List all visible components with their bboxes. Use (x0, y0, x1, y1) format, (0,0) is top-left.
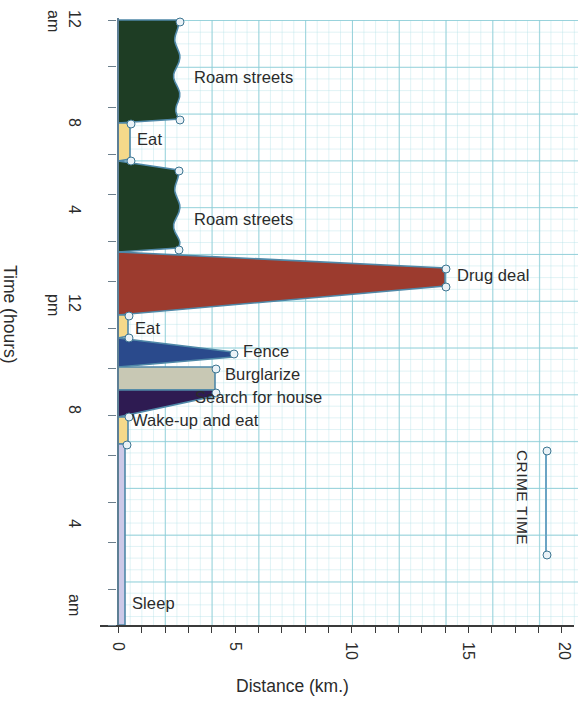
crime-time-endpoint-bottom (543, 551, 552, 560)
y-axis-title: Time (hours) (0, 265, 20, 364)
x-tick-minor (211, 627, 212, 633)
label-drug-deal: Drug deal (457, 266, 529, 285)
label-sleep: Sleep (132, 594, 175, 613)
endpoint-marker (127, 157, 136, 166)
bar-roam-streets-1 (118, 20, 180, 123)
y-tick-minor (108, 328, 116, 329)
y-tick-minor (108, 66, 116, 67)
y-tick (108, 368, 116, 369)
label-search-for-house: Search for house (195, 388, 322, 407)
x-tick-minor (165, 627, 166, 633)
x-tick-minor (561, 627, 562, 633)
x-tick-minor (421, 627, 422, 633)
x-tick-minor (491, 627, 492, 633)
y-tick-minor (108, 589, 116, 590)
y-tick-label-12am-num: 12 (65, 10, 83, 28)
x-axis-line (100, 625, 574, 627)
bar-drug-deal (118, 252, 445, 315)
x-tick-minor (445, 627, 446, 633)
bar-sleep (118, 444, 125, 625)
y-tick (108, 455, 116, 456)
y-tick-label-12pm-mer: pm (44, 294, 62, 316)
x-tick-label-0: 0 (109, 642, 127, 651)
x-tick-label-20: 20 (555, 642, 573, 660)
chart-root: Roam streets Eat Roam streets Drug deal … (0, 0, 585, 713)
x-axis-title: Distance (km.) (0, 676, 585, 697)
endpoint-marker (123, 441, 132, 450)
x-tick-minor (141, 627, 142, 633)
plot-area: Roam streets Eat Roam streets Drug deal … (118, 20, 578, 625)
y-tick-label-am-mer: am (65, 594, 83, 616)
endpoint-marker (125, 312, 134, 321)
label-roam-streets-2: Roam streets (194, 210, 293, 229)
x-tick (468, 627, 469, 633)
endpoint-marker (175, 167, 184, 176)
y-tick-label-12am-mer: am (44, 10, 62, 32)
y-tick (108, 107, 116, 108)
endpoint-marker (125, 334, 134, 343)
y-tick (108, 542, 116, 543)
label-eat-2: Eat (135, 319, 160, 338)
bar-burglarize (118, 367, 215, 390)
crime-time-label: CRIME TIME (513, 450, 531, 545)
crime-time-bracket-line (545, 449, 547, 554)
y-tick-label-12pm-num: 12 (65, 294, 83, 312)
bar-roam-streets-2 (118, 161, 180, 252)
label-wakeup-and-eat: Wake-up and eat (132, 411, 259, 430)
x-tick-minor (281, 627, 282, 633)
x-tick-minor (538, 627, 539, 633)
label-eat-1: Eat (137, 130, 162, 149)
endpoint-marker (230, 350, 239, 359)
x-tick-minor (375, 627, 376, 633)
x-tick (351, 627, 352, 633)
y-tick-minor (108, 154, 116, 155)
x-tick (235, 627, 236, 633)
y-tick-label-8am-num: 8 (65, 118, 83, 127)
y-tick (108, 194, 116, 195)
x-tick-label-10: 10 (342, 642, 360, 660)
x-tick (118, 627, 119, 633)
endpoint-marker (442, 283, 451, 292)
y-tick (108, 625, 116, 626)
x-tick-minor (515, 627, 516, 633)
x-tick-minor (258, 627, 259, 633)
x-tick-label-5: 5 (226, 642, 244, 651)
bars-svg (118, 20, 578, 625)
label-burglarize: Burglarize (225, 365, 300, 384)
y-axis-line (117, 18, 119, 627)
endpoint-marker (176, 18, 185, 27)
y-tick-label-8pm-num: 8 (65, 405, 83, 414)
endpoint-marker (176, 116, 185, 125)
x-tick-minor (305, 627, 306, 633)
y-tick-label-4am-num: 4 (65, 205, 83, 214)
y-tick-minor (108, 241, 116, 242)
label-fence: Fence (243, 342, 289, 361)
y-tick-minor (108, 502, 116, 503)
label-roam-streets-1: Roam streets (194, 68, 293, 87)
x-tick-label-15: 15 (459, 642, 477, 660)
x-tick-minor (398, 627, 399, 633)
x-tick-minor (328, 627, 329, 633)
bar-eat-1 (118, 123, 130, 161)
bar-fence (118, 338, 233, 367)
endpoint-marker (127, 120, 136, 129)
endpoint-marker (442, 265, 451, 274)
endpoint-marker (175, 246, 184, 255)
y-tick-minor (108, 415, 116, 416)
crime-time-endpoint-top (543, 447, 552, 456)
y-tick (108, 281, 116, 282)
x-tick-minor (188, 627, 189, 633)
y-tick-label-4pm-num: 4 (65, 519, 83, 528)
y-tick (108, 20, 116, 21)
endpoint-marker (212, 365, 221, 374)
